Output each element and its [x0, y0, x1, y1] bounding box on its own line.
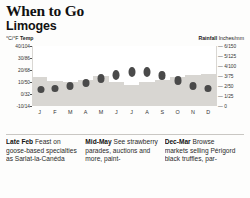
month-column — [109, 46, 125, 106]
seasonal-tip: Dec-Mar Browse markets selling Périgord … — [165, 138, 244, 198]
left-axis-tick — [30, 58, 32, 59]
temperature-marker — [159, 71, 166, 81]
when-to-go-panel: When to Go Limoges °C/°F Temp Rainfall I… — [0, 0, 250, 198]
page-subtitle: Limoges — [6, 19, 244, 33]
left-axis-tick — [30, 46, 32, 47]
month-column — [78, 46, 94, 106]
left-axis-tick-label: 30/86 — [6, 56, 30, 61]
month-label: J — [109, 107, 124, 117]
right-axis-tick-label: — 3/75 — [218, 74, 244, 79]
month-label: M — [93, 107, 108, 117]
chart-legend: °C/°F Temp Rainfall Inches/mm — [6, 35, 244, 44]
right-axis-tick-label: — 6/150 — [218, 44, 244, 49]
rainfall-units-label: Inches/mm — [219, 35, 244, 41]
month-label: F — [47, 107, 62, 117]
rainfall-legend-label: Rainfall — [198, 35, 217, 41]
left-axis-tick-label: 20/68 — [6, 68, 30, 73]
left-axis-tick-label: 10/50 — [6, 80, 30, 85]
rainfall-bar — [139, 82, 154, 106]
left-axis-tick — [30, 82, 32, 83]
chart-plot-area — [32, 46, 216, 106]
left-axis-tick-label: -10/14 — [6, 104, 30, 109]
month-column — [139, 46, 155, 106]
divider — [6, 134, 244, 135]
month-label: D — [201, 107, 216, 117]
right-axis-tick-label: — 5/125 — [218, 54, 244, 59]
month-column — [201, 46, 217, 106]
right-axis-tick-label: — 0 — [218, 104, 244, 109]
rainfall-bar — [124, 85, 139, 106]
left-axis-tick — [30, 94, 32, 95]
seasonal-tip: Late Feb Feast on goose-based specialtie… — [6, 138, 85, 198]
temperature-marker — [128, 67, 135, 77]
seasonal-tips: Late Feb Feast on goose-based specialtie… — [0, 138, 250, 198]
temp-legend: °C/°F Temp — [6, 35, 33, 41]
month-label: N — [185, 107, 200, 117]
month-label: S — [155, 107, 170, 117]
left-axis-tick — [30, 106, 32, 107]
tip-lead: Late Feb — [6, 138, 33, 145]
tip-lead: Dec-Mar — [165, 138, 191, 145]
temperature-marker — [67, 82, 74, 90]
rainfall-bar — [155, 80, 170, 106]
month-label: O — [170, 107, 185, 117]
month-column — [124, 46, 140, 106]
month-label: J — [124, 107, 139, 117]
left-axis-tick-label: 0/32 — [6, 92, 30, 97]
rainfall-legend: Rainfall Inches/mm — [198, 35, 244, 41]
month-label: J — [32, 107, 47, 117]
month-label: A — [78, 107, 93, 117]
header: When to Go Limoges — [0, 0, 250, 33]
left-axis-tick-label: 40/104 — [6, 44, 30, 49]
temp-legend-label: Temp — [20, 35, 33, 41]
seasonal-tip: Mid-May See strawberry parades, auctions… — [85, 138, 164, 198]
month-axis: JFMAMJJASOND — [32, 107, 216, 117]
rainfall-bar — [109, 82, 124, 106]
temperature-marker — [143, 67, 150, 77]
left-axis-tick — [30, 70, 32, 71]
month-label: M — [63, 107, 78, 117]
climate-chart: JFMAMJJASOND 40/10430/8620/6810/500/32-1… — [6, 44, 244, 116]
right-axis-tick-label: — 1/25 — [218, 94, 244, 99]
temperature-marker — [113, 70, 120, 80]
temperature-marker — [174, 76, 181, 85]
month-column — [63, 46, 79, 106]
temp-units-label: °C/°F — [6, 35, 19, 41]
page-title: When to Go — [6, 2, 244, 19]
temperature-marker — [189, 82, 196, 90]
month-label: A — [139, 107, 154, 117]
month-column — [93, 46, 109, 106]
tip-lead: Mid-May — [85, 138, 111, 145]
month-column — [185, 46, 201, 106]
month-column — [170, 46, 186, 106]
month-column — [47, 46, 63, 106]
month-column — [155, 46, 171, 106]
right-axis-tick-label: — 4/100 — [218, 64, 244, 69]
temperature-marker — [97, 74, 104, 83]
rainfall-bar — [185, 75, 200, 106]
right-axis-tick-label: — 2/50 — [218, 84, 244, 89]
